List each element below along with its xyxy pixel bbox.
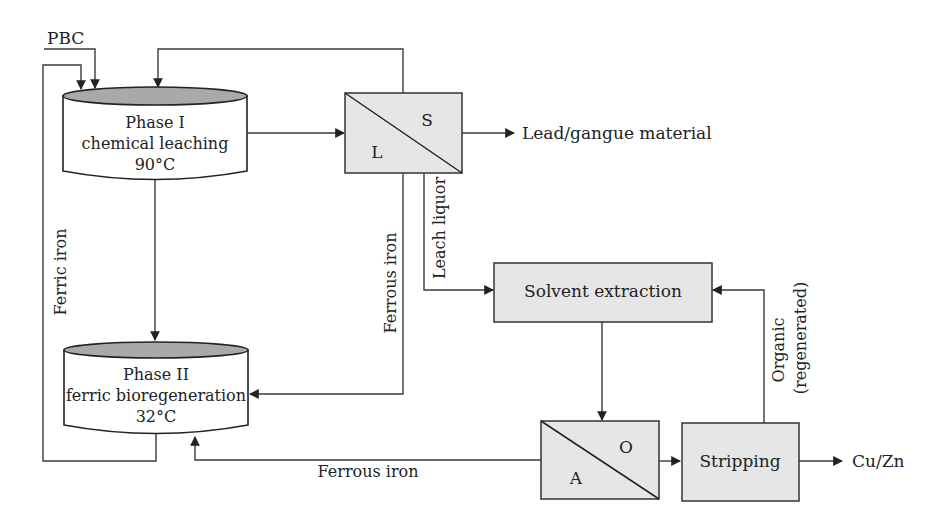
stripping-label: Stripping [699,451,780,471]
phase2-temperature: 32°C [136,407,177,426]
ao-separator: O A [541,421,659,499]
solvent-extraction-label: Solvent extraction [524,281,682,301]
phase2-tank-top [64,342,248,358]
phase1-tank-top [63,87,247,105]
pbc-label: PBC [47,28,84,48]
ferrous-iron-vertical-label: Ferrous iron [381,233,400,334]
stripping-unit: Stripping [682,423,799,501]
organic-label: Organic [769,318,788,383]
solvent-extraction-unit: Solvent extraction [494,263,712,322]
ls-separator: S L [345,93,462,173]
ls-liquid-label: L [371,142,382,162]
ao-aqueous-label: A [569,468,583,488]
regenerated-label: (regenerated) [791,282,810,394]
ferric-iron-label: Ferric iron [51,229,70,316]
cu-zn-label: Cu/Zn [852,451,904,471]
phase2-title: Phase II [123,365,189,384]
phase1-tank: Phase I chemical leaching 90°C [63,87,247,180]
process-flow-diagram: PBC Ferric iron Phase I chemical leachin… [0,0,944,522]
phase1-title: Phase I [125,113,185,132]
ferrous-iron-bottom-arrow [195,437,541,460]
lead-gangue-label: Lead/gangue material [522,123,712,143]
phase1-temperature: 90°C [135,155,176,174]
leach-liquor-label: Leach liquor [430,177,449,279]
organic-regenerated-arrow [713,290,764,423]
phase2-tank: Phase II ferric bioregeneration 32°C [64,342,248,434]
ferrous-iron-bottom-label: Ferrous iron [318,462,419,481]
phase1-process: chemical leaching [82,134,229,153]
ao-organic-label: O [619,437,633,457]
top-return-arrow [158,49,403,93]
pbc-feed-arrow [44,49,95,88]
phase2-process: ferric bioregeneration [66,386,246,405]
ls-solid-label: S [421,110,433,130]
